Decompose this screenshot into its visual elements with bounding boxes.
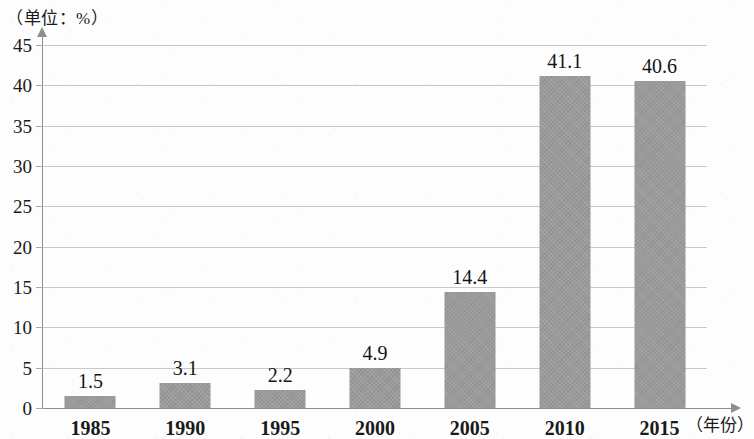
x-axis-tick-label: 2005 [450, 418, 490, 438]
bar-group: 2.2 [236, 45, 324, 408]
bar-group: 40.6 [616, 45, 704, 408]
y-axis-arrow-icon [37, 27, 47, 37]
bar-group: 41.1 [521, 45, 609, 408]
bar-value-label: 14.4 [452, 267, 487, 287]
x-axis-tick-label: 1995 [260, 418, 300, 438]
x-axis-tick-label: 2015 [640, 418, 680, 438]
y-axis-tick [36, 166, 43, 167]
bar[interactable] [350, 368, 401, 408]
y-axis-unit-label: （单位：%） [6, 4, 108, 29]
bar[interactable] [65, 396, 116, 408]
x-axis-arrow-icon [731, 403, 741, 413]
y-axis-tick-label: 5 [23, 358, 33, 377]
bar-value-label: 2.2 [268, 365, 293, 385]
bar-group: 1.5 [46, 45, 134, 408]
y-axis-tick-label: 40 [13, 76, 32, 95]
y-axis-tick [36, 247, 43, 248]
bar-value-label: 1.5 [78, 371, 103, 391]
plot-area: 454035302520151050 1.53.12.24.914.441.14… [43, 45, 707, 408]
bar-value-label: 4.9 [363, 343, 388, 363]
bar[interactable] [255, 390, 306, 408]
bar[interactable] [160, 383, 211, 408]
bar[interactable] [444, 292, 495, 408]
y-axis-tick-label: 0 [23, 399, 33, 418]
x-axis-tick-label: 1985 [70, 418, 110, 438]
gridline [43, 408, 707, 409]
y-axis-tick [36, 85, 43, 86]
y-axis-tick-label: 30 [13, 157, 32, 176]
x-axis-tick-label: 2010 [545, 418, 585, 438]
y-axis-tick [36, 45, 43, 46]
y-axis-tick [36, 287, 43, 288]
x-axis-tick-label: 1990 [165, 418, 205, 438]
bar[interactable] [539, 76, 590, 408]
y-axis-tick-label: 45 [13, 36, 32, 55]
y-axis-tick [36, 327, 43, 328]
y-axis-tick-label: 25 [13, 197, 32, 216]
chart-page: （单位：%） 454035302520151050 1.53.12.24.914… [0, 0, 754, 439]
y-axis-tick-label: 20 [13, 237, 32, 256]
bar-value-label: 41.1 [547, 51, 582, 71]
y-axis-tick-label: 35 [13, 116, 32, 135]
x-axis-tick-label: 2000 [355, 418, 395, 438]
y-axis-tick [36, 206, 43, 207]
y-axis-tick [36, 368, 43, 369]
bar-group: 3.1 [141, 45, 229, 408]
bar-group: 4.9 [331, 45, 419, 408]
bar-group: 14.4 [426, 45, 514, 408]
y-axis-tick [36, 126, 43, 127]
y-axis-tick [36, 408, 43, 409]
bar[interactable] [634, 81, 685, 409]
y-axis-tick-label: 15 [13, 278, 32, 297]
y-axis-tick-label: 10 [13, 318, 32, 337]
bar-value-label: 40.6 [642, 56, 677, 76]
x-axis-unit-label: （年份） [686, 417, 754, 436]
bar-value-label: 3.1 [173, 358, 198, 378]
